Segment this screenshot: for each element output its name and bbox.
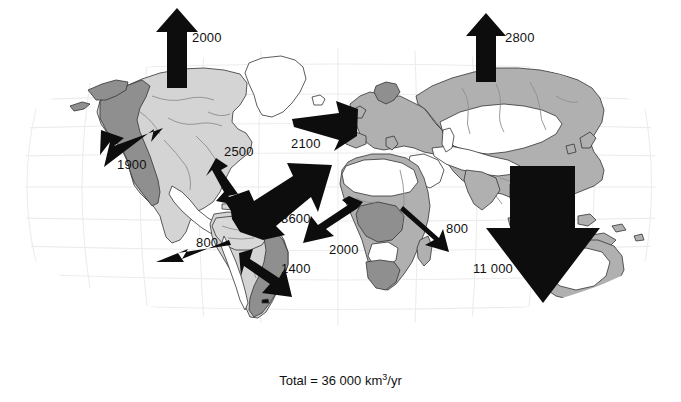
flow-arrows bbox=[100, 8, 600, 303]
flow-arrows-layer bbox=[0, 0, 681, 370]
flow-label-na-north: 2000 bbox=[192, 31, 222, 44]
flow-label-eu-west: 2100 bbox=[291, 137, 321, 150]
flow-label-africa-se: 800 bbox=[446, 222, 468, 235]
flow-label-sa-southeast: 1400 bbox=[281, 262, 311, 275]
flow-label-africa-sw: 2000 bbox=[329, 243, 359, 256]
flow-arrow-sa-west bbox=[156, 240, 231, 262]
flow-arrow-asia-north bbox=[466, 13, 506, 82]
flow-label-asia-north: 2800 bbox=[505, 31, 535, 44]
flow-arrow-africa-sw bbox=[303, 196, 363, 243]
flow-map-figure: 2000 1900 2500 2100 2800 8600 800 1400 2… bbox=[0, 0, 681, 402]
flow-label-indo-south: 11 000 bbox=[473, 262, 513, 275]
flow-label-na-southeast: 2500 bbox=[224, 145, 254, 158]
flow-label-sa-west: 800 bbox=[196, 236, 218, 249]
flow-label-na-southwest: 1900 bbox=[117, 158, 147, 171]
flow-label-atlantic-ne: 8600 bbox=[281, 212, 311, 225]
flow-arrow-africa-se bbox=[400, 206, 449, 252]
caption-suffix: /yr bbox=[387, 373, 401, 388]
flow-arrow-indo-south bbox=[486, 166, 600, 303]
flow-arrow-na-north bbox=[156, 8, 198, 88]
world-map: 2000 1900 2500 2100 2800 8600 800 1400 2… bbox=[0, 0, 681, 370]
total-caption: Total = 36 000 km3/yr bbox=[0, 373, 681, 388]
caption-prefix: Total = 36 000 km bbox=[279, 373, 382, 388]
